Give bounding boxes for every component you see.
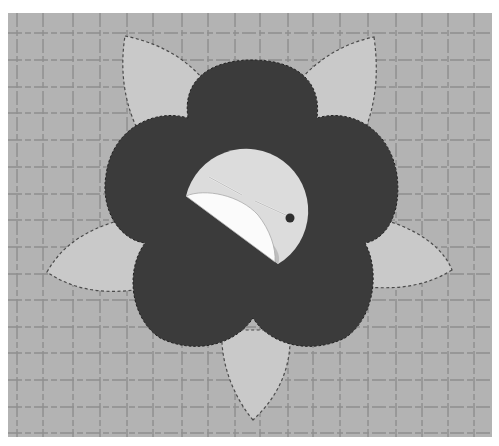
fabric-flower-photo: Fabric flower appliqué with pin: [0, 0, 499, 446]
pin-head: [286, 214, 295, 223]
flower-illustration: [0, 0, 499, 446]
